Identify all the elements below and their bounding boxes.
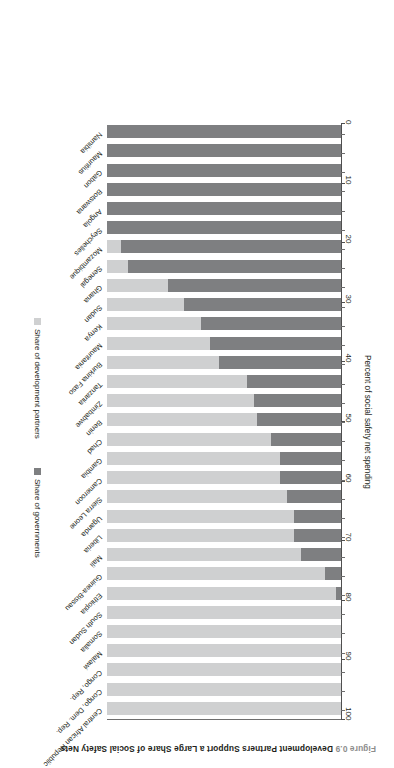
bar-segment-development-partners xyxy=(107,683,341,696)
figure-number: Figure 0.9 xyxy=(335,744,376,754)
bar-row xyxy=(107,548,341,561)
bar-segment-development-partners xyxy=(107,587,336,600)
category-tick xyxy=(341,153,345,154)
bar-segment-governments xyxy=(201,317,341,330)
category-axis-line xyxy=(107,719,341,720)
bar-segment-development-partners xyxy=(107,606,341,619)
bar-segment-development-partners xyxy=(107,529,294,542)
bar-row xyxy=(107,202,341,215)
bar-row xyxy=(107,240,341,253)
bar-segment-governments xyxy=(257,414,341,427)
legend-swatch xyxy=(34,318,41,325)
bar-row xyxy=(107,702,341,715)
category-tick xyxy=(341,134,345,135)
figure-stage: Figure 0.9 Development Partners Support … xyxy=(0,0,394,768)
value-tick-label: 70 xyxy=(344,522,353,542)
category-tick xyxy=(341,307,345,308)
bar-segment-governments xyxy=(294,510,341,523)
category-tick xyxy=(341,364,345,365)
category-tick xyxy=(341,326,345,327)
category-tick xyxy=(341,614,345,615)
bar-segment-development-partners xyxy=(107,317,201,330)
value-tick-label: 90 xyxy=(344,641,353,661)
bar-segment-governments xyxy=(107,202,341,215)
bar-row xyxy=(107,433,341,446)
bar-segment-governments xyxy=(280,471,341,484)
bar-segment-governments xyxy=(121,240,341,253)
category-tick xyxy=(341,557,345,558)
category-tick xyxy=(341,499,345,500)
bar-segment-development-partners xyxy=(107,260,128,273)
bar-segment-development-partners xyxy=(107,337,210,350)
category-tick xyxy=(341,576,345,577)
bar-row xyxy=(107,567,341,580)
category-tick xyxy=(341,268,345,269)
bar-segment-governments xyxy=(107,221,341,234)
value-tick-label: 60 xyxy=(344,462,353,482)
bar-row xyxy=(107,663,341,676)
bar-segment-governments xyxy=(301,548,341,561)
bar-segment-governments xyxy=(107,144,341,157)
bar-segment-governments xyxy=(219,356,341,369)
category-tick xyxy=(341,518,345,519)
category-tick xyxy=(341,672,345,673)
value-tick-label: 20 xyxy=(344,224,353,244)
bar-segment-governments xyxy=(271,433,341,446)
bar-segment-development-partners xyxy=(107,394,254,407)
bar-segment-governments xyxy=(168,279,341,292)
category-tick xyxy=(341,211,345,212)
category-label: Mali xyxy=(88,553,104,569)
legend-item: Share of governments xyxy=(33,468,42,558)
bar-row xyxy=(107,644,341,657)
bar-row xyxy=(107,337,341,350)
bar-row xyxy=(107,221,341,234)
value-axis-title: Percent of social safety net spending xyxy=(363,124,372,720)
bar-segment-governments xyxy=(336,587,341,600)
value-tick-label: 50 xyxy=(344,403,353,423)
bar-row xyxy=(107,298,341,311)
category-tick xyxy=(341,249,345,250)
bar-segment-governments xyxy=(247,375,341,388)
bar-row xyxy=(107,317,341,330)
bar-segment-governments xyxy=(254,394,341,407)
value-tick-label: 100 xyxy=(344,701,353,721)
bar-row xyxy=(107,529,341,542)
bar-segment-development-partners xyxy=(107,702,341,715)
bar-segment-development-partners xyxy=(107,490,287,503)
category-tick xyxy=(341,633,345,634)
value-tick-label: 10 xyxy=(344,164,353,184)
bar-row xyxy=(107,510,341,523)
plot-area xyxy=(107,124,341,720)
bar-row xyxy=(107,414,341,427)
legend-item: Share of development partners xyxy=(33,318,42,439)
category-label: Chad xyxy=(85,438,104,457)
bar-row xyxy=(107,356,341,369)
bar-row xyxy=(107,260,341,273)
bar-segment-governments xyxy=(210,337,341,350)
category-tick xyxy=(341,441,345,442)
bar-segment-development-partners xyxy=(107,433,271,446)
bar-segment-governments xyxy=(287,490,341,503)
bar-segment-development-partners xyxy=(107,567,325,580)
bar-segment-development-partners xyxy=(107,510,294,523)
bar-row xyxy=(107,144,341,157)
figure-title-text: Development Partners Support a Large Sha… xyxy=(60,744,333,754)
bar-row xyxy=(107,279,341,292)
bar-segment-development-partners xyxy=(107,548,301,561)
bar-row xyxy=(107,625,341,638)
bar-segment-governments xyxy=(325,567,341,580)
bar-segment-development-partners xyxy=(107,298,184,311)
bar-segment-governments xyxy=(107,125,341,138)
bar-segment-development-partners xyxy=(107,356,219,369)
category-tick xyxy=(341,691,345,692)
legend-swatch xyxy=(34,468,41,475)
bar-segment-development-partners xyxy=(107,471,280,484)
bar-segment-development-partners xyxy=(107,644,341,657)
category-label: Gambia xyxy=(80,457,105,482)
value-tick-label: 40 xyxy=(344,343,353,363)
bar-row xyxy=(107,375,341,388)
bar-segment-development-partners xyxy=(107,375,247,388)
bar-segment-development-partners xyxy=(107,452,280,465)
legend-label: Share of development partners xyxy=(33,329,42,439)
bar-row xyxy=(107,183,341,196)
